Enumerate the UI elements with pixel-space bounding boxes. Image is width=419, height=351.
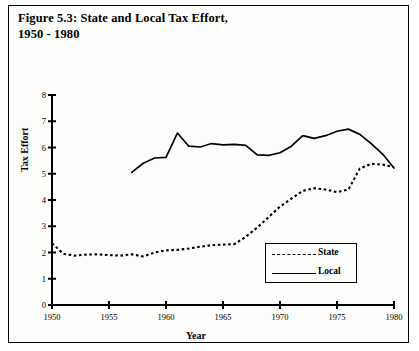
y-tick-label: 4 <box>28 195 46 205</box>
figure-title-line2: 1950 - 1980 <box>18 27 80 41</box>
legend-label-state: State <box>318 247 339 257</box>
x-tick-label: 1950 <box>44 312 61 322</box>
x-tick-label: 1980 <box>386 312 403 322</box>
x-axis-label: Year <box>186 330 206 341</box>
x-tick-label: 1975 <box>329 312 346 322</box>
legend-swatch-local-icon <box>272 273 316 274</box>
y-tick-label: 1 <box>28 274 46 284</box>
legend-swatch-state-icon <box>272 254 316 255</box>
legend-item-state: State <box>266 244 358 264</box>
y-tick-label: 0 <box>28 300 46 310</box>
legend-label-local: Local <box>318 266 341 276</box>
y-tick-label: 2 <box>28 248 46 258</box>
y-tick-label: 6 <box>28 143 46 153</box>
figure-frame <box>8 5 409 343</box>
legend-item-local: Local <box>266 263 358 283</box>
y-tick-label: 7 <box>28 116 46 126</box>
figure-title: Figure 5.3: State and Local Tax Effort, … <box>18 10 348 42</box>
chart-legend: State Local <box>265 243 357 283</box>
x-tick-label: 1970 <box>272 312 289 322</box>
y-tick-label: 8 <box>28 90 46 100</box>
y-tick-label: 3 <box>28 221 46 231</box>
figure-title-line1: Figure 5.3: State and Local Tax Effort, <box>18 11 228 25</box>
y-tick-label: 5 <box>28 169 46 179</box>
x-tick-label: 1960 <box>158 312 175 322</box>
x-tick-label: 1965 <box>215 312 232 322</box>
x-tick-label: 1955 <box>101 312 118 322</box>
